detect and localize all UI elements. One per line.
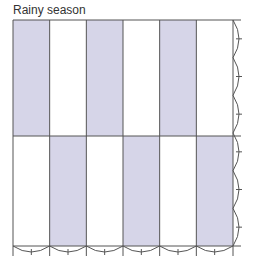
shaded-cell	[13, 20, 50, 136]
shaded-cell	[86, 20, 123, 136]
shaded-cell	[160, 20, 197, 136]
shaded-cell	[50, 136, 87, 246]
stripe-pattern-diagram	[0, 0, 254, 272]
shaded-cell	[196, 136, 233, 246]
shaded-cell	[123, 136, 160, 246]
